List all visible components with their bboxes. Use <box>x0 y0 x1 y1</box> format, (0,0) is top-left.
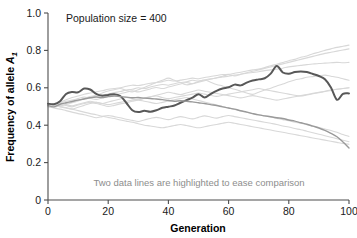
y-tick-label-0.4: 0.4 <box>26 119 41 131</box>
x-tick-label-0: 0 <box>45 205 51 217</box>
genetic-drift-figure: 00.20.40.60.81.0 020406080100 Generation… <box>0 0 357 238</box>
y-axis-title-symbol: A <box>4 56 16 65</box>
y-tick-label-1.0: 1.0 <box>26 7 41 19</box>
population-size-annotation: Population size = 400 <box>66 12 167 24</box>
y-tick-label-0.8: 0.8 <box>26 44 41 56</box>
x-tick-label-40: 40 <box>163 205 175 217</box>
x-tick-label-60: 60 <box>223 205 235 217</box>
x-tick-label-100: 100 <box>340 205 357 217</box>
chart-canvas: 00.20.40.60.81.0 020406080100 Generation… <box>0 0 357 238</box>
x-tick-label-80: 80 <box>283 205 295 217</box>
y-tick-label-0: 0 <box>35 194 41 206</box>
plot-background <box>0 0 357 238</box>
y-axis-title-subscript: 1 <box>10 51 19 56</box>
x-tick-label-20: 20 <box>102 205 114 217</box>
x-axis-title: Generation <box>170 222 225 234</box>
y-tick-label-0.2: 0.2 <box>26 156 41 168</box>
y-axis-title-base: Frequency of allele <box>4 64 16 162</box>
highlight-caption-annotation: Two data lines are highlighted to ease c… <box>93 177 304 188</box>
y-tick-label-0.6: 0.6 <box>26 81 41 93</box>
